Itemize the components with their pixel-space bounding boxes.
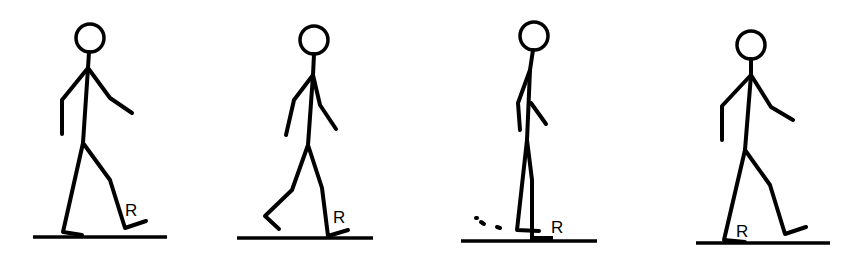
right-arm — [531, 103, 546, 124]
stick-figure-3: R — [461, 22, 597, 241]
motion-dash — [497, 227, 500, 228]
foot-pad — [531, 236, 553, 240]
right-leg — [527, 140, 532, 240]
right-arm — [88, 68, 132, 113]
leg-label: R — [333, 208, 345, 227]
right-arm — [313, 75, 336, 129]
torso — [83, 52, 89, 143]
right-leg — [745, 150, 806, 234]
torso — [745, 59, 751, 150]
left-leg — [265, 145, 308, 229]
stick-figure-4: R — [696, 31, 830, 243]
leg-label: R — [125, 201, 137, 220]
head — [300, 26, 328, 54]
stick-figure-2: R — [237, 26, 373, 238]
motion-dash — [481, 222, 484, 224]
torso — [308, 54, 314, 145]
leg-label: R — [551, 218, 563, 237]
leg-label: R — [736, 222, 748, 241]
head — [76, 24, 104, 52]
right-arm — [751, 75, 793, 120]
head — [737, 31, 765, 59]
stick-figure-1: R — [33, 24, 167, 237]
left-leg — [63, 143, 83, 235]
gait-diagram: R R R R — [0, 0, 867, 262]
torso — [527, 50, 533, 140]
head — [520, 22, 548, 50]
